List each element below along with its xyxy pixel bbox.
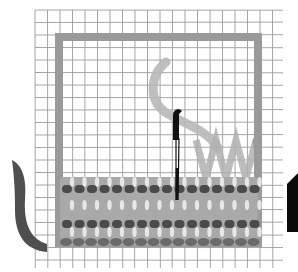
- stitch-band: [60, 177, 262, 246]
- needlework-illustration: [0, 0, 298, 272]
